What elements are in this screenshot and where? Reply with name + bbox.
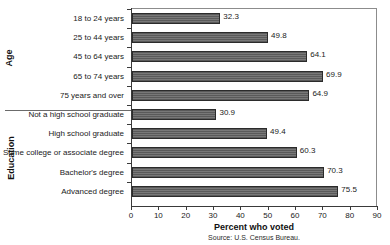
category-tick [127, 182, 131, 183]
category-label: Bachelor's degree [0, 167, 124, 178]
x-tick [131, 207, 132, 210]
bar-row: 64.1 [132, 51, 378, 62]
source-note: Source: U.S. Census Bureau. [131, 234, 377, 241]
x-axis-title: Percent who voted [131, 222, 377, 232]
x-tick-label: 90 [362, 211, 390, 221]
category-label: Some college or associate degree [0, 147, 124, 158]
category-tick [127, 143, 131, 144]
bar-row: 49.4 [132, 128, 378, 139]
category-tick [127, 105, 131, 106]
bar [132, 13, 220, 24]
x-tick [268, 207, 269, 210]
category-tick [127, 28, 131, 29]
x-tick [295, 207, 296, 210]
bar [132, 109, 216, 120]
bar-value-label: 49.8 [271, 30, 287, 41]
bar-row: 64.9 [132, 90, 378, 101]
bar-value-label: 64.9 [312, 88, 328, 99]
bar-value-label: 75.5 [341, 184, 357, 195]
category-tick [127, 67, 131, 68]
x-tick [158, 207, 159, 210]
category-tick [127, 163, 131, 164]
category-tick [127, 86, 131, 87]
x-tick [377, 207, 378, 210]
bar [132, 90, 309, 101]
bar-row: 32.3 [132, 13, 378, 24]
x-tick [322, 207, 323, 210]
category-label: 25 to 44 years [0, 32, 124, 43]
category-label: High school graduate [0, 128, 124, 139]
x-tick [350, 207, 351, 210]
category-label: Not a high school graduate [0, 109, 124, 120]
bar [132, 128, 267, 139]
category-tick [127, 9, 131, 10]
bar [132, 32, 268, 43]
bar-row: 60.3 [132, 147, 378, 158]
bar-row: 49.8 [132, 32, 378, 43]
bar-row: 30.9 [132, 109, 378, 120]
x-tick-label: 50 [253, 211, 283, 221]
bar-value-label: 49.4 [270, 126, 286, 137]
x-tick-label: 0 [116, 211, 146, 221]
category-label: 65 to 74 years [0, 71, 124, 82]
bar [132, 186, 338, 197]
x-tick [186, 207, 187, 210]
bar-value-label: 69.9 [326, 69, 342, 80]
bar-value-label: 60.3 [300, 145, 316, 156]
bar [132, 147, 297, 158]
x-tick-label: 20 [171, 211, 201, 221]
bar-chart: Age Education 18 to 24 years32.325 to 44… [0, 0, 390, 245]
bar-value-label: 70.3 [327, 165, 343, 176]
bar-value-label: 32.3 [223, 11, 239, 22]
bar [132, 167, 324, 178]
x-tick-label: 80 [335, 211, 365, 221]
x-tick-label: 10 [143, 211, 173, 221]
category-tick [127, 124, 131, 125]
x-tick [213, 207, 214, 210]
x-tick-label: 60 [280, 211, 310, 221]
bar-row: 70.3 [132, 167, 378, 178]
bar [132, 51, 307, 62]
x-tick-label: 30 [198, 211, 228, 221]
category-label: Advanced degree [0, 186, 124, 197]
category-label: 18 to 24 years [0, 13, 124, 24]
bar-row: 75.5 [132, 186, 378, 197]
x-tick-label: 40 [225, 211, 255, 221]
x-tick [240, 207, 241, 210]
category-label: 75 years and over [0, 90, 124, 101]
bar-row: 69.9 [132, 71, 378, 82]
bar [132, 71, 323, 82]
x-axis-line [131, 206, 378, 207]
bar-value-label: 64.1 [310, 49, 326, 60]
category-label: 45 to 64 years [0, 51, 124, 62]
category-tick [127, 47, 131, 48]
bar-value-label: 30.9 [219, 107, 235, 118]
x-tick-label: 70 [307, 211, 337, 221]
